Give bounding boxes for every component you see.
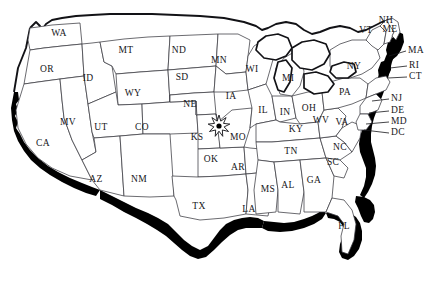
state-label-ut: UT <box>94 122 107 132</box>
state-label-vt: VT <box>359 25 372 35</box>
state-label-al: AL <box>281 180 294 190</box>
state-label-de: DE <box>391 105 404 115</box>
state-label-ri: RI <box>409 60 419 70</box>
state-label-ms: MS <box>261 184 275 194</box>
state-label-mt: MT <box>119 45 134 55</box>
state-label-oh: OH <box>302 103 316 113</box>
state-label-ne: NE <box>183 99 196 109</box>
state-label-ga: GA <box>307 175 321 185</box>
leader-line-ct <box>388 77 407 78</box>
us-map-figure: WAORIDMTNDSDNEWYMVUTCOCAAZNMKSOKTXMNIAMO… <box>0 0 433 287</box>
state-label-az: AZ <box>89 174 102 184</box>
state-label-fl: FL <box>338 221 350 231</box>
state-label-or: OR <box>40 64 54 74</box>
state-label-co: CO <box>135 122 149 132</box>
state-label-mn: MN <box>211 55 227 65</box>
state-label-sc: SC <box>327 157 339 167</box>
state-label-ky: KY <box>289 124 303 134</box>
state-label-mv: MV <box>60 117 76 127</box>
state-label-nd: ND <box>172 45 186 55</box>
us-map-svg: WAORIDMTNDSDNEWYMVUTCOCAAZNMKSOKTXMNIAMO… <box>0 0 433 287</box>
state-label-me: ME <box>383 24 398 34</box>
state-label-nm: NM <box>131 174 147 184</box>
leader-line-ri <box>390 66 407 68</box>
state-label-dc: DC <box>391 127 405 137</box>
state-label-tn: TN <box>284 146 297 156</box>
state-label-ks: KS <box>191 132 204 142</box>
state-label-ar: AR <box>231 162 245 172</box>
state-label-md: MD <box>391 116 407 126</box>
state-label-sd: SD <box>176 72 189 82</box>
state-label-in: IN <box>280 107 291 117</box>
state-label-ia: IA <box>226 91 237 101</box>
state-label-il: IL <box>258 105 268 115</box>
state-label-tx: TX <box>192 201 205 211</box>
state-label-ma: MA <box>408 45 424 55</box>
state-label-wy: WY <box>125 88 141 98</box>
state-label-mi: MI <box>282 73 294 83</box>
state-label-nj: NJ <box>391 93 402 103</box>
state-label-id: ID <box>83 73 94 83</box>
state-label-ca: CA <box>36 138 50 148</box>
state-label-pa: PA <box>339 87 351 97</box>
marker-center-dot[interactable] <box>216 123 221 128</box>
state-label-ny: NY <box>347 61 361 71</box>
state-label-ct: CT <box>409 71 422 81</box>
state-label-la: LA <box>242 204 255 214</box>
state-label-wi: WI <box>246 64 259 74</box>
state-label-mo: MO <box>230 132 246 142</box>
state-label-wv: WV <box>313 115 329 125</box>
state-label-wa: WA <box>51 28 66 38</box>
state-label-ok: OK <box>204 154 218 164</box>
state-label-nc: NC <box>333 142 347 152</box>
state-label-va: VA <box>335 117 348 127</box>
